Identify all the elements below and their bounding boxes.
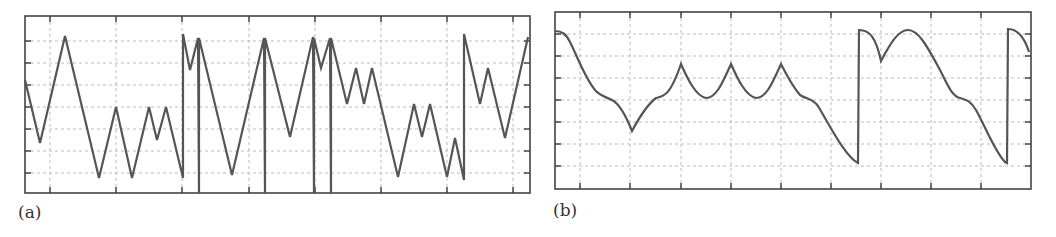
grid-b: [555, 12, 1031, 189]
chart-panel-a: [25, 16, 530, 193]
figure-canvas: [0, 0, 1056, 237]
signal-curve-b: [555, 29, 1029, 163]
signal-line-a: [25, 34, 528, 193]
panel-label-b: (b): [553, 200, 577, 220]
panel-label-a: (a): [18, 202, 41, 222]
chart-panel-b: [555, 12, 1031, 189]
